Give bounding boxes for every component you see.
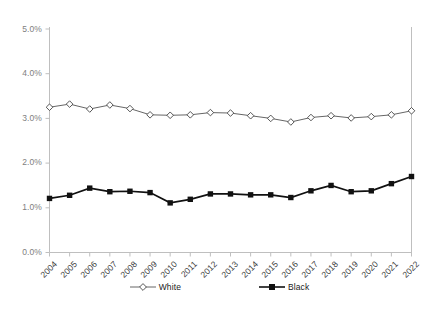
filled-square-marker-icon <box>259 282 285 292</box>
chart-legend: White Black <box>0 282 439 292</box>
data-point-marker[interactable] <box>67 193 72 198</box>
data-point-marker[interactable] <box>369 188 374 193</box>
data-point-marker[interactable] <box>348 189 353 194</box>
data-point-marker[interactable] <box>107 189 112 194</box>
x-axis-ticks <box>50 253 412 257</box>
data-point-marker[interactable] <box>389 181 394 186</box>
legend-label-black: Black <box>288 282 309 292</box>
data-point-marker[interactable] <box>267 115 274 122</box>
data-point-marker[interactable] <box>247 112 254 119</box>
data-point-marker[interactable] <box>87 185 92 190</box>
data-point-marker[interactable] <box>368 113 375 120</box>
data-point-marker[interactable] <box>208 191 213 196</box>
data-point-marker[interactable] <box>227 110 234 117</box>
data-point-marker[interactable] <box>388 112 395 119</box>
data-point-marker[interactable] <box>268 192 273 197</box>
data-point-marker[interactable] <box>127 189 132 194</box>
data-point-marker[interactable] <box>348 115 355 122</box>
data-point-marker[interactable] <box>127 105 134 112</box>
data-point-marker[interactable] <box>409 174 414 179</box>
series-line <box>50 177 412 203</box>
series-black <box>47 174 414 206</box>
data-point-marker[interactable] <box>86 106 93 113</box>
data-point-marker[interactable] <box>207 109 214 116</box>
data-point-marker[interactable] <box>288 119 295 126</box>
data-point-marker[interactable] <box>167 112 174 119</box>
y-axis-ticks <box>46 29 50 253</box>
data-point-marker[interactable] <box>328 183 333 188</box>
data-point-marker[interactable] <box>107 102 114 109</box>
data-point-marker[interactable] <box>248 192 253 197</box>
open-diamond-marker-icon <box>130 282 156 292</box>
data-point-marker[interactable] <box>47 196 52 201</box>
data-point-marker[interactable] <box>328 112 335 119</box>
data-point-marker[interactable] <box>147 112 154 119</box>
legend-label-white: White <box>159 282 181 292</box>
data-point-marker[interactable] <box>308 188 313 193</box>
data-point-marker[interactable] <box>46 104 53 111</box>
data-point-marker[interactable] <box>408 108 415 115</box>
data-point-marker[interactable] <box>147 190 152 195</box>
data-point-marker[interactable] <box>288 195 293 200</box>
data-point-marker[interactable] <box>228 191 233 196</box>
series-white <box>46 101 415 125</box>
legend-item-white[interactable]: White <box>130 282 181 292</box>
data-point-marker[interactable] <box>187 112 194 119</box>
line-chart: 5.0% 4.0% 3.0% 2.0% 1.0% 0.0% 2004200520… <box>0 0 439 310</box>
legend-item-black[interactable]: Black <box>259 282 309 292</box>
data-series-layer <box>46 101 415 206</box>
data-point-marker[interactable] <box>167 200 172 205</box>
data-point-marker[interactable] <box>66 101 73 108</box>
data-point-marker[interactable] <box>188 197 193 202</box>
axis-lines <box>50 27 413 253</box>
data-point-marker[interactable] <box>308 114 315 121</box>
